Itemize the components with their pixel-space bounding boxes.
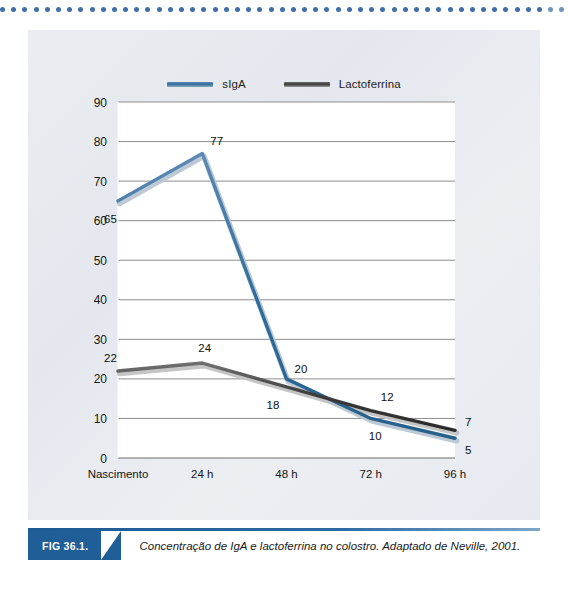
y-tick-40: 40 <box>94 293 108 307</box>
chart-plot-area: 0102030405060708090 Nascimento24 h48 h72… <box>28 30 540 520</box>
decorative-dot <box>436 7 441 12</box>
decorative-dot <box>537 7 542 12</box>
decorative-dot <box>470 7 475 12</box>
figure-caption-bar: FIG 36.1. Concentração de IgA e lactofer… <box>28 528 540 560</box>
decorative-dot <box>425 7 430 12</box>
decorative-dot <box>515 7 520 12</box>
decorative-dot <box>224 7 229 12</box>
decorative-dot <box>246 7 251 12</box>
point-label-lactoferrina-0: 22 <box>104 352 117 364</box>
plot-canvas <box>118 102 455 458</box>
decorative-dot <box>459 7 464 12</box>
decorative-dot <box>448 7 453 12</box>
y-tick-20: 20 <box>94 372 108 386</box>
decorative-dot <box>201 7 206 12</box>
decorative-dot <box>481 7 486 12</box>
decorative-dot <box>392 7 397 12</box>
y-tick-0: 0 <box>100 452 107 466</box>
figure-tag-wedge-icon <box>101 531 121 560</box>
figure-panel: sIgA Lactoferrina 010 <box>28 30 540 520</box>
x-tick-1: 24 h <box>191 468 213 480</box>
decorative-dot <box>526 7 531 12</box>
point-label-siga-3: 10 <box>369 430 382 442</box>
decorative-dot <box>45 7 50 12</box>
decorative-dot <box>302 7 307 12</box>
point-label-lactoferrina-3: 12 <box>381 391 394 403</box>
decorative-dot <box>78 7 83 12</box>
point-label-siga-1: 77 <box>210 135 223 147</box>
y-tick-90: 90 <box>94 96 108 110</box>
decorative-dot <box>324 7 329 12</box>
point-label-lactoferrina-4: 7 <box>465 416 471 428</box>
decorative-dot <box>134 7 139 12</box>
y-tick-10: 10 <box>94 412 108 426</box>
decorative-dot <box>235 7 240 12</box>
y-axis-tick-labels: 0102030405060708090 <box>94 96 108 466</box>
plot-background <box>118 102 455 458</box>
y-tick-80: 80 <box>94 135 108 149</box>
decorative-dot <box>336 7 341 12</box>
decorative-dot <box>101 7 106 12</box>
decorative-dot <box>503 7 508 12</box>
decorative-dot-rule <box>0 4 568 14</box>
x-tick-4: 96 h <box>444 468 466 480</box>
point-label-siga-2: 20 <box>295 363 308 375</box>
y-tick-30: 30 <box>94 333 108 347</box>
decorative-dot <box>213 7 218 12</box>
decorative-dot <box>190 7 195 12</box>
figure-number-text: FIG 36.1. <box>42 540 88 552</box>
y-tick-50: 50 <box>94 254 108 268</box>
decorative-dot <box>492 7 497 12</box>
line-chart-svg: 0102030405060708090 Nascimento24 h48 h72… <box>28 30 540 520</box>
decorative-dot <box>403 7 408 12</box>
decorative-dot <box>145 7 150 12</box>
decorative-dot <box>369 7 374 12</box>
decorative-dot <box>112 7 117 12</box>
x-tick-0: Nascimento <box>88 468 149 480</box>
decorative-dot <box>548 7 553 12</box>
decorative-dot <box>157 7 162 12</box>
decorative-dot <box>313 7 318 12</box>
point-label-lactoferrina-1: 24 <box>198 342 211 354</box>
decorative-dot <box>291 7 296 12</box>
decorative-dot <box>11 7 16 12</box>
decorative-dot <box>269 7 274 12</box>
decorative-dot <box>0 7 5 12</box>
figure-number-tag: FIG 36.1. <box>28 531 101 560</box>
decorative-dot <box>257 7 262 12</box>
decorative-dot <box>123 7 128 12</box>
decorative-dot <box>90 7 95 12</box>
decorative-dot <box>380 7 385 12</box>
decorative-dot <box>67 7 72 12</box>
decorative-dot <box>559 7 564 12</box>
decorative-dot <box>414 7 419 12</box>
decorative-dot <box>168 7 173 12</box>
x-tick-2: 48 h <box>275 468 297 480</box>
decorative-dot <box>179 7 184 12</box>
x-tick-3: 72 h <box>360 468 382 480</box>
caption-body: FIG 36.1. Concentração de IgA e lactofer… <box>28 531 540 560</box>
decorative-dot <box>22 7 27 12</box>
y-tick-70: 70 <box>94 175 108 189</box>
figure-caption-text: Concentração de IgA e lactoferrina no co… <box>101 531 540 560</box>
point-label-lactoferrina-2: 18 <box>267 399 280 411</box>
decorative-dot <box>34 7 39 12</box>
decorative-dot <box>347 7 352 12</box>
decorative-dot <box>56 7 61 12</box>
decorative-dot <box>280 7 285 12</box>
point-label-siga-4: 5 <box>465 444 471 456</box>
point-label-siga-0: 65 <box>104 213 117 225</box>
x-axis-tick-labels: Nascimento24 h48 h72 h96 h <box>88 468 467 480</box>
decorative-dot <box>358 7 363 12</box>
